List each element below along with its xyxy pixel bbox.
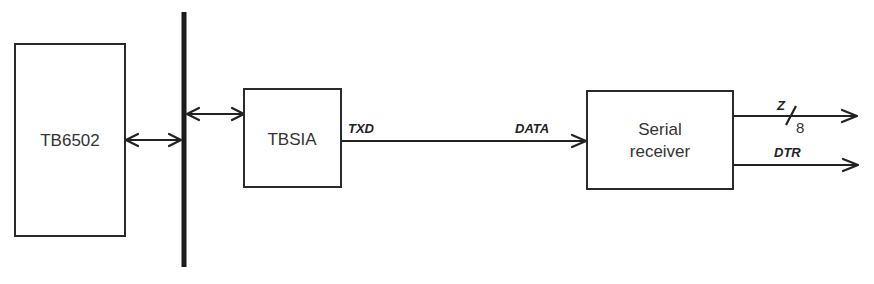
cpu-bus-double-arrow-icon xyxy=(126,134,181,146)
txd-data-arrow-icon xyxy=(341,135,586,147)
txd-label: TXD xyxy=(348,121,375,136)
tb6502-label: TB6502 xyxy=(40,131,100,150)
data-label: DATA xyxy=(515,121,549,136)
z-output-arrow-icon xyxy=(733,106,857,125)
block-diagram: TB6502 TBSIA TXD DATA Serial receiver Z … xyxy=(0,0,874,284)
serial-receiver-label-line1: Serial xyxy=(638,120,681,139)
block-tb6502: TB6502 xyxy=(15,44,125,236)
block-tbsia: TBSIA xyxy=(244,89,341,187)
z-label: Z xyxy=(776,98,786,113)
serial-receiver-label-line2: receiver xyxy=(630,142,691,161)
bus-sia-double-arrow-icon xyxy=(187,108,244,120)
dtr-label: DTR xyxy=(774,145,801,160)
tbsia-label: TBSIA xyxy=(267,130,317,149)
dtr-output-arrow-icon xyxy=(733,159,858,171)
block-serial-receiver: Serial receiver xyxy=(587,91,733,189)
bus-width-label: 8 xyxy=(796,119,804,136)
serial-receiver-box xyxy=(587,91,733,189)
